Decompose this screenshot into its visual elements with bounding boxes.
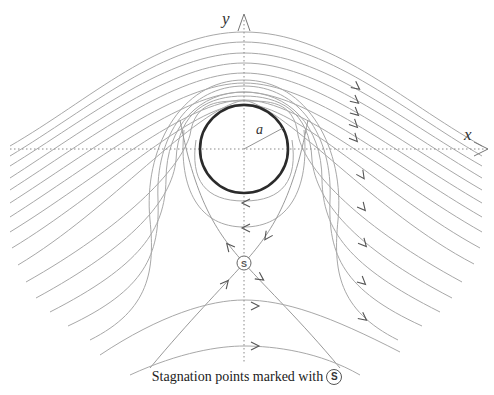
streamline: [68, 86, 422, 326]
streamline: [18, 100, 474, 265]
stagnation-marker-icon: S: [326, 369, 342, 385]
x-axis-arrowhead-icon: [474, 142, 488, 156]
stagnation-point-label: S: [241, 259, 247, 269]
flow-diagram: x y a S: [0, 0, 494, 395]
flow-arrow-icon: [358, 238, 369, 249]
figure-caption: Stagnation points marked withS: [0, 369, 494, 385]
flow-arrow-icon: [349, 119, 360, 130]
flow-arrow-icon: [358, 312, 369, 323]
streamline: [10, 42, 482, 156]
radius-label: a: [256, 122, 263, 137]
stagnation-point-marker: S: [237, 256, 251, 270]
flow-arrow-icon: [255, 272, 266, 283]
streamline: [10, 32, 482, 146]
flow-arrow-icon: [350, 95, 361, 106]
y-axis-label: y: [220, 9, 230, 28]
flow-arrow-icon: [262, 231, 273, 242]
lower-streamline: [100, 300, 400, 355]
flow-arrow-icon: [251, 302, 259, 310]
flow-arrow-icon: [242, 199, 250, 207]
flow-arrow-icon: [242, 224, 250, 232]
x-axis-label: x: [463, 125, 472, 144]
radius-line: [244, 128, 283, 149]
lower-streamlines-group: [100, 300, 400, 375]
streamlines-group: [10, 32, 482, 340]
flow-arrow-icon: [357, 202, 368, 213]
caption-text: Stagnation points marked with: [152, 369, 323, 384]
